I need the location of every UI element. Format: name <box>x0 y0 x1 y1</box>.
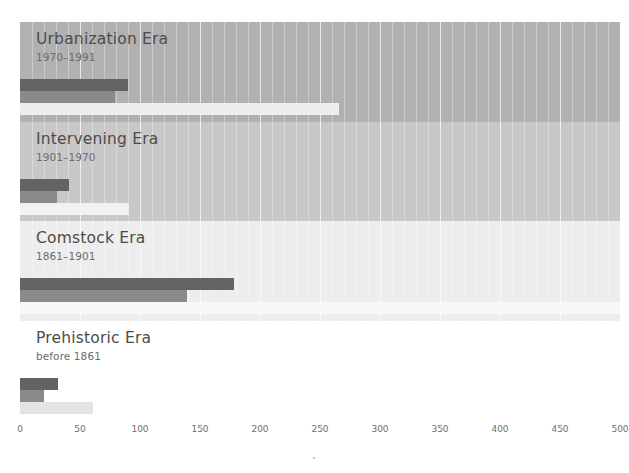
era-period-comstock-era: 1861–1901 <box>36 250 96 262</box>
era-title-urbanization-era: Urbanization Era <box>36 30 168 48</box>
bar-prehistoric-era-dark <box>20 378 58 390</box>
era-panel-urbanization-era: Urbanization Era1970–1991 <box>20 22 620 122</box>
era-period-intervening-era: 1901–1970 <box>36 151 96 163</box>
bar-urbanization-era-light <box>20 103 339 115</box>
era-title-intervening-era: Intervening Era <box>36 130 158 148</box>
bar-urbanization-era-medium <box>20 91 115 103</box>
era-panel-comstock-era: Comstock Era1861–1901 <box>20 221 620 321</box>
x-tick-label-400: 400 <box>491 424 508 434</box>
x-tick-label-250: 250 <box>311 424 328 434</box>
era-panel-prehistoric-era: Prehistoric Erabefore 1861 <box>20 321 620 421</box>
bar-comstock-era-light <box>20 302 620 314</box>
bar-prehistoric-era-light <box>20 402 93 414</box>
era-title-prehistoric-era: Prehistoric Era <box>36 329 151 347</box>
plot-area: Urbanization Era1970–1991Intervening Era… <box>20 22 620 420</box>
bar-urbanization-era-dark <box>20 79 128 91</box>
x-tick-label-150: 150 <box>191 424 208 434</box>
x-tick-label-100: 100 <box>131 424 148 434</box>
bar-comstock-era-medium <box>20 290 187 302</box>
bar-comstock-era-dark <box>20 278 234 290</box>
era-period-urbanization-era: 1970–1991 <box>36 51 96 63</box>
x-tick-label-500: 500 <box>611 424 628 434</box>
x-tick-label-350: 350 <box>431 424 448 434</box>
bar-intervening-era-light <box>20 203 129 215</box>
x-axis: 050100150200250300350400450500 <box>20 424 620 444</box>
bar-prehistoric-era-medium <box>20 390 44 402</box>
footer-marker <box>313 457 315 459</box>
bar-intervening-era-medium <box>20 191 57 203</box>
x-tick-label-0: 0 <box>17 424 23 434</box>
x-tick-label-450: 450 <box>551 424 568 434</box>
x-tick-label-300: 300 <box>371 424 388 434</box>
era-panel-intervening-era: Intervening Era1901–1970 <box>20 122 620 222</box>
era-period-prehistoric-era: before 1861 <box>36 350 101 362</box>
era-title-comstock-era: Comstock Era <box>36 229 146 247</box>
x-tick-label-50: 50 <box>74 424 85 434</box>
x-tick-label-200: 200 <box>251 424 268 434</box>
bar-intervening-era-dark <box>20 179 69 191</box>
